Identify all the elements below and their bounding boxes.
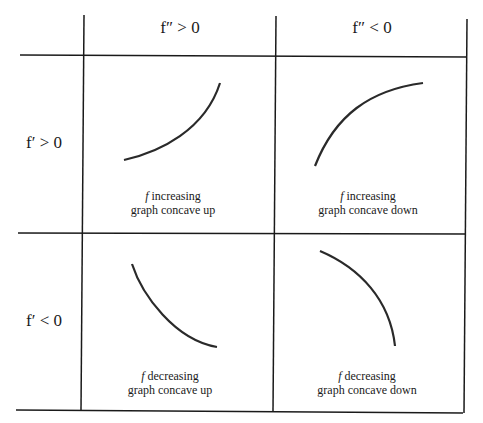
curve-decreasing-concave-down: [320, 251, 395, 346]
caption-increasing-concave-up: f increasing graph concave up: [78, 189, 268, 217]
right-border-line: [464, 19, 467, 413]
curve-decreasing-concave-up: [132, 264, 217, 347]
caption-decreasing-concave-up: f decreasing graph concave up: [75, 369, 265, 397]
column-header-second-derivative-negative: f″ < 0: [277, 18, 467, 38]
caption-line1: decreasing: [342, 369, 396, 383]
caption-line2: graph concave up: [131, 203, 216, 217]
row-header-first-derivative-positive: f′ > 0: [6, 133, 82, 153]
curve-increasing-concave-down: [315, 83, 423, 166]
caption-line1: increasing: [149, 189, 201, 203]
caption-line2: graph concave up: [128, 383, 213, 397]
row-divider-line: [18, 233, 465, 234]
caption-line2: graph concave down: [317, 383, 416, 397]
caption-line2: graph concave down: [318, 203, 417, 217]
caption-increasing-concave-down: f increasing graph concave down: [273, 189, 463, 217]
column-header-second-derivative-positive: f″ > 0: [85, 18, 275, 38]
caption-decreasing-concave-down: f decreasing graph concave down: [272, 369, 462, 397]
caption-line1: increasing: [344, 189, 396, 203]
bottom-border-line: [16, 410, 463, 413]
curve-increasing-concave-up: [124, 83, 220, 160]
caption-line1: decreasing: [145, 369, 199, 383]
row-header-first-derivative-negative: f′ < 0: [6, 311, 82, 331]
header-divider-line: [20, 55, 467, 57]
